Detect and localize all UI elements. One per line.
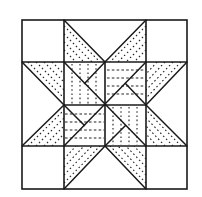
top-star-points (64, 26, 146, 62)
grid-frame (22, 20, 187, 189)
quilt-star-diagram (0, 0, 202, 197)
bottom-star-points (64, 146, 146, 183)
